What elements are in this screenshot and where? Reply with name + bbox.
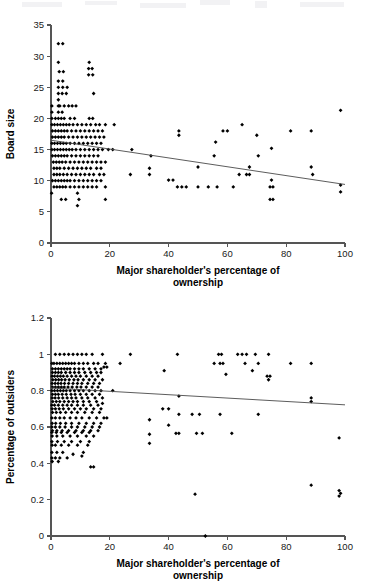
- data-point: [64, 198, 68, 202]
- data-point: [176, 185, 180, 189]
- data-point: [61, 374, 65, 378]
- y-tick-label: 25: [33, 82, 44, 93]
- data-point: [67, 407, 71, 411]
- data-point: [54, 425, 58, 429]
- data-point: [103, 198, 107, 202]
- data-point: [63, 382, 67, 386]
- data-point: [79, 154, 83, 158]
- data-point: [76, 434, 80, 438]
- data-point: [96, 429, 100, 433]
- data-point: [167, 423, 171, 427]
- data-point: [270, 178, 274, 182]
- data-point: [71, 452, 75, 456]
- data-point: [268, 374, 272, 378]
- data-point: [128, 173, 132, 177]
- data-point: [76, 204, 80, 208]
- x-tick-label: 20: [105, 541, 116, 552]
- data-point: [64, 371, 68, 375]
- data-point: [67, 443, 71, 447]
- data-point: [71, 382, 75, 386]
- data-point: [87, 440, 91, 444]
- data-point: [62, 352, 66, 356]
- data-point: [96, 362, 100, 366]
- data-point-group: [50, 352, 343, 537]
- data-point: [71, 352, 75, 356]
- data-point: [80, 135, 84, 139]
- data-point: [271, 198, 275, 202]
- data-point: [84, 392, 88, 396]
- data-point: [99, 371, 103, 375]
- data-point: [59, 421, 63, 425]
- data-point: [161, 407, 165, 411]
- data-point: [96, 129, 100, 133]
- data-point: [62, 416, 66, 420]
- data-point: [76, 352, 80, 356]
- data-point: [56, 440, 60, 444]
- data-point-group: [50, 42, 343, 208]
- data-point: [98, 123, 102, 127]
- x-axis-title-line1: Major shareholder's percentage of: [117, 265, 281, 276]
- data-point: [70, 403, 74, 407]
- data-point: [74, 104, 78, 108]
- data-point: [56, 92, 60, 96]
- data-point: [73, 117, 77, 121]
- data-point: [271, 185, 275, 189]
- y-tick-label: 15: [33, 144, 44, 155]
- data-point: [62, 440, 66, 444]
- data-point: [84, 385, 88, 389]
- data-point: [99, 166, 103, 170]
- data-point: [60, 110, 64, 114]
- data-point: [92, 434, 96, 438]
- data-point: [62, 135, 66, 139]
- data-point: [81, 400, 85, 404]
- data-point: [171, 178, 175, 182]
- scan-artifact: [85, 1, 117, 5]
- data-point: [86, 179, 90, 183]
- data-point: [54, 416, 58, 420]
- data-point: [64, 411, 68, 415]
- data-point: [214, 140, 218, 144]
- data-point: [89, 135, 93, 139]
- data-point: [105, 416, 109, 420]
- y-axis-title: Board size: [5, 108, 16, 159]
- data-point: [62, 104, 66, 108]
- data-point: [180, 185, 184, 189]
- data-point: [57, 70, 61, 74]
- data-point: [92, 465, 96, 469]
- x-tick-label: 60: [222, 541, 233, 552]
- data-point: [99, 141, 103, 145]
- data-point: [58, 352, 62, 356]
- data-point: [86, 362, 90, 366]
- data-point: [95, 141, 99, 145]
- data-point: [90, 352, 94, 356]
- data-point: [128, 352, 132, 356]
- data-point: [70, 104, 74, 108]
- data-point: [67, 400, 71, 404]
- data-point: [86, 185, 90, 189]
- data-point: [80, 454, 84, 458]
- data-point: [76, 166, 80, 170]
- data-point: [96, 403, 100, 407]
- x-tick-label: 0: [48, 541, 53, 552]
- data-point: [77, 160, 81, 164]
- data-point: [71, 135, 75, 139]
- data-point: [92, 148, 96, 152]
- y-tick-label: 35: [33, 19, 44, 30]
- data-point: [76, 378, 80, 382]
- data-point: [95, 160, 99, 164]
- data-point: [62, 166, 66, 170]
- data-point: [92, 421, 96, 425]
- data-point: [84, 135, 88, 139]
- x-axis-title-line2: ownership: [173, 570, 223, 581]
- data-point: [93, 378, 97, 382]
- data-point: [56, 42, 60, 46]
- data-point: [86, 160, 90, 164]
- data-point: [130, 148, 134, 152]
- data-point: [76, 425, 80, 429]
- data-point: [61, 70, 65, 74]
- data-point: [68, 117, 72, 121]
- scan-artifact: [22, 2, 62, 7]
- data-point: [148, 432, 152, 436]
- data-point: [79, 392, 83, 396]
- data-point: [76, 411, 80, 415]
